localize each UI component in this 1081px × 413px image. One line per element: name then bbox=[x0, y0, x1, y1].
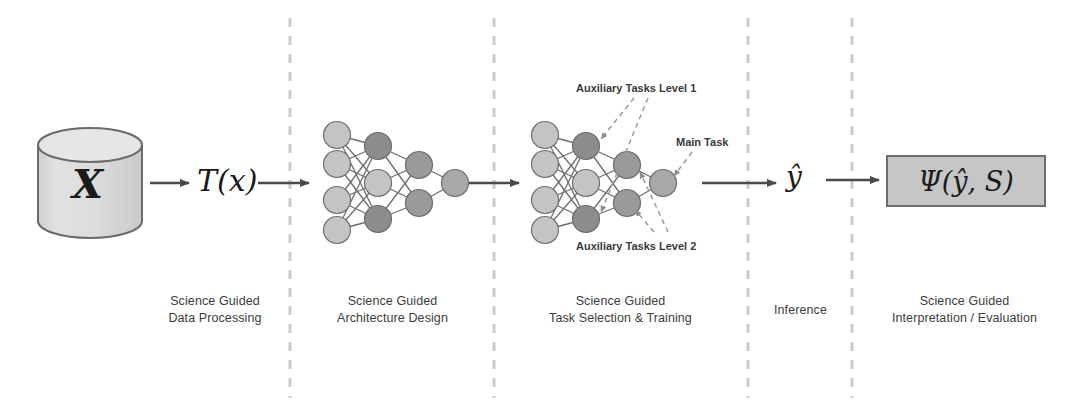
caption-line-1: Science Guided bbox=[305, 293, 480, 310]
node-input-3 bbox=[532, 187, 559, 214]
caption-line-1: Science Guided bbox=[518, 293, 723, 310]
annotation-auxiliary-tasks-level-1: Auxiliary Tasks Level 1 bbox=[576, 82, 696, 94]
caption-inference: Inference bbox=[758, 302, 843, 319]
leader-main-task bbox=[674, 152, 692, 176]
caption-interpretation-evaluation: Science Guided Interpretation / Evaluati… bbox=[862, 293, 1067, 327]
node-hidden-middle bbox=[573, 170, 600, 197]
node-hidden2-1 bbox=[406, 152, 433, 179]
figure-canvas: X T(x) ŷ Ψ(ŷ, S) Auxiliary Tasks Level 1… bbox=[0, 0, 1081, 413]
node-auxiliary-level1-bottom bbox=[573, 206, 600, 233]
leader-aux2-to-hidden2-bottom bbox=[635, 210, 654, 232]
node-hidden1-3 bbox=[365, 206, 392, 233]
leader-aux1-to-hidden1-top bbox=[601, 98, 634, 139]
node-input-4 bbox=[532, 217, 559, 244]
node-output-1 bbox=[442, 170, 469, 197]
network-task-selection-nodes bbox=[532, 122, 677, 244]
caption-line-2: Task Selection & Training bbox=[518, 310, 723, 327]
node-auxiliary-level1-top bbox=[573, 133, 600, 160]
caption-line-2: Architecture Design bbox=[305, 310, 480, 327]
node-input-1 bbox=[324, 122, 351, 149]
caption-line-2: Interpretation / Evaluation bbox=[862, 310, 1067, 327]
node-hidden1-2 bbox=[365, 170, 392, 197]
caption-architecture-design: Science Guided Architecture Design bbox=[305, 293, 480, 327]
network-architecture bbox=[324, 122, 469, 244]
node-input-3 bbox=[324, 187, 351, 214]
evaluation-box: Ψ(ŷ, S) bbox=[886, 155, 1046, 207]
caption-line-1: Science Guided bbox=[135, 293, 295, 310]
node-input-2 bbox=[324, 151, 351, 178]
node-hidden2-2 bbox=[406, 190, 433, 217]
node-input-2 bbox=[532, 151, 559, 178]
caption-line-1: Inference bbox=[758, 302, 843, 319]
node-auxiliary-level2-bottom bbox=[614, 190, 641, 217]
annotation-auxiliary-tasks-level-2: Auxiliary Tasks Level 2 bbox=[576, 240, 696, 252]
database-label: X bbox=[72, 160, 103, 207]
node-input-1 bbox=[532, 122, 559, 149]
transform-label: T(x) bbox=[197, 163, 257, 198]
network-architecture-edges bbox=[337, 135, 455, 230]
annotation-main-task: Main Task bbox=[676, 136, 728, 148]
node-auxiliary-level2-top bbox=[614, 152, 641, 179]
node-hidden1-1 bbox=[365, 133, 392, 160]
node-input-4 bbox=[324, 217, 351, 244]
node-main-task-output bbox=[650, 170, 677, 197]
caption-line-1: Science Guided bbox=[862, 293, 1067, 310]
network-architecture-nodes bbox=[324, 122, 469, 244]
evaluation-label: Ψ(ŷ, S) bbox=[918, 166, 1014, 197]
prediction-label: ŷ bbox=[786, 160, 802, 193]
caption-data-processing: Science Guided Data Processing bbox=[135, 293, 295, 327]
caption-line-2: Data Processing bbox=[135, 310, 295, 327]
caption-task-selection-training: Science Guided Task Selection & Training bbox=[518, 293, 723, 327]
cylinder-top bbox=[38, 128, 142, 162]
network-task-selection bbox=[532, 98, 693, 244]
flow-arrows bbox=[150, 180, 879, 183]
